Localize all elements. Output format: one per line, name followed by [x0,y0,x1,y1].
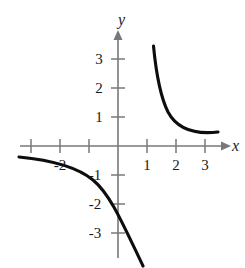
curve-branch-lower-left [19,157,143,266]
curve-branch-upper-right [154,46,219,133]
x-tick-label-neg-2: -2 [48,158,72,173]
x-tick-label-pos-1: 1 [139,158,155,173]
hyperbola-graph-figure: y x -2 1 2 3 3 2 1 -1 -2 -3 [0,0,245,268]
x-axis-arrowhead [221,142,231,151]
y-axis-arrowhead [114,30,123,40]
x-tick-label-pos-3: 3 [197,158,213,173]
coordinate-plot-svg [0,0,245,268]
x-axis-label: x [232,138,239,154]
y-tick-label-neg-1: -1 [84,168,106,183]
y-axis-label: y [118,12,125,28]
y-tick-label-pos-1: 1 [92,110,106,125]
y-tick-label-neg-2: -2 [84,197,106,212]
x-tick-label-pos-2: 2 [168,158,184,173]
y-tick-label-pos-2: 2 [92,81,106,96]
y-tick-label-neg-3: -3 [84,226,106,241]
y-tick-label-pos-3: 3 [92,52,106,67]
